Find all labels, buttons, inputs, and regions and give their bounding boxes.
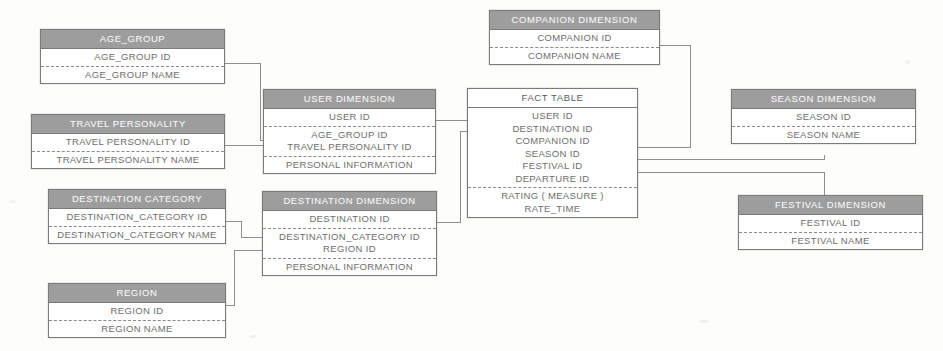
field-group-key: DESTINATION_CATEGORY ID [49, 209, 225, 226]
field-festival-id: FESTIVAL ID [741, 217, 920, 230]
connector-user-to-fact [436, 120, 468, 121]
entity-title-festival-dimension: FESTIVAL DIMENSION [739, 196, 922, 215]
field-age-group-id: AGE_GROUP ID [43, 51, 222, 64]
field-age-group-name: AGE_GROUP NAME [43, 69, 222, 82]
connector-destination-category-to-destination [226, 221, 242, 222]
entity-travel-personality[interactable]: TRAVEL PERSONALITY TRAVEL PERSONALITY ID… [31, 114, 225, 169]
field-rate-time: RATE_TIME [470, 203, 635, 216]
field-group-key: REGION ID [49, 303, 225, 320]
schema-diagram-canvas: AGE_GROUP AGE_GROUP ID AGE_GROUP NAME TR… [0, 0, 943, 351]
entity-companion-dimension[interactable]: COMPANION DIMENSION COMPANION ID COMPANI… [489, 10, 660, 65]
field-group-foreign-keys: AGE_GROUP ID TRAVEL PERSONALITY ID [264, 126, 435, 156]
entity-region[interactable]: REGION REGION ID REGION NAME [48, 283, 226, 338]
connector-companion-to-fact [690, 45, 691, 148]
entity-user-dimension[interactable]: USER DIMENSION USER ID AGE_GROUP ID TRAV… [263, 89, 436, 174]
field-rating-measure: RATING ( MEASURE ) [470, 190, 635, 203]
paper-grain [700, 320, 708, 323]
field-group-attributes: REGION NAME [49, 320, 225, 338]
field-group-attributes: PERSONAL INFORMATION [263, 258, 436, 276]
field-group-attributes: TRAVEL PERSONALITY NAME [32, 151, 224, 169]
field-group-key: SEASON ID [732, 109, 915, 126]
entity-body-companion-dimension: COMPANION ID COMPANION NAME [490, 30, 659, 64]
field-group-key: TRAVEL PERSONALITY ID [32, 134, 224, 151]
field-season-id-fk: SEASON ID [470, 148, 635, 161]
field-destination-category-id-fk: DESTINATION_CATEGORY ID [265, 231, 434, 244]
entity-title-user-dimension: USER DIMENSION [264, 90, 435, 109]
entity-title-age-group: AGE_GROUP [41, 30, 224, 49]
entity-body-age-group: AGE_GROUP ID AGE_GROUP NAME [41, 49, 224, 83]
field-group-foreign-keys: USER ID DESTINATION ID COMPANION ID SEAS… [468, 108, 637, 187]
entity-body-user-dimension: USER ID AGE_GROUP ID TRAVEL PERSONALITY … [264, 109, 435, 173]
field-group-measures: RATING ( MEASURE ) RATE_TIME [468, 187, 637, 217]
field-group-attributes: SEASON NAME [732, 126, 915, 144]
entity-title-destination-category: DESTINATION CATEGORY [49, 190, 225, 209]
entity-fact-table[interactable]: FACT TABLE USER ID DESTINATION ID COMPAN… [467, 88, 638, 218]
field-companion-name: COMPANION NAME [492, 50, 657, 63]
field-destination-id: DESTINATION ID [265, 213, 434, 226]
field-group-attributes: AGE_GROUP NAME [41, 66, 224, 84]
connector-festival-to-fact [824, 172, 825, 195]
connector-travel-personality-to-user [225, 145, 266, 146]
field-personal-information: PERSONAL INFORMATION [266, 159, 433, 172]
connector-companion-to-fact [660, 45, 691, 46]
field-group-attributes: COMPANION NAME [490, 47, 659, 65]
connector-companion-to-fact [637, 147, 691, 148]
entity-body-season-dimension: SEASON ID SEASON NAME [732, 109, 915, 143]
field-group-foreign-keys: DESTINATION_CATEGORY ID REGION ID [263, 228, 436, 258]
field-destination-id-fk: DESTINATION ID [470, 123, 635, 136]
field-companion-id: COMPANION ID [492, 32, 657, 45]
paper-grain [250, 335, 257, 338]
field-age-group-id-fk: AGE_GROUP ID [266, 129, 433, 142]
entity-festival-dimension[interactable]: FESTIVAL DIMENSION FESTIVAL ID FESTIVAL … [738, 195, 923, 250]
connector-destination-category-to-destination [241, 221, 242, 238]
field-group-attributes: DESTINATION_CATEGORY NAME [49, 226, 225, 244]
entity-title-season-dimension: SEASON DIMENSION [732, 90, 915, 109]
entity-body-destination-dimension: DESTINATION ID DESTINATION_CATEGORY ID R… [263, 211, 436, 275]
entity-title-travel-personality: TRAVEL PERSONALITY [32, 115, 224, 134]
connector-region-to-destination [234, 250, 263, 251]
entity-season-dimension[interactable]: SEASON DIMENSION SEASON ID SEASON NAME [731, 89, 916, 144]
entity-title-fact-table: FACT TABLE [468, 89, 637, 108]
connector-festival-to-fact [637, 172, 825, 173]
field-group-attributes: FESTIVAL NAME [739, 232, 922, 250]
field-region-id: REGION ID [51, 305, 223, 318]
connector-destination-to-fact [460, 131, 461, 223]
entity-age-group[interactable]: AGE_GROUP AGE_GROUP ID AGE_GROUP NAME [40, 29, 225, 84]
entity-body-destination-category: DESTINATION_CATEGORY ID DESTINATION_CATE… [49, 209, 225, 243]
field-group-key: FESTIVAL ID [739, 215, 922, 232]
field-travel-personality-name: TRAVEL PERSONALITY NAME [34, 154, 222, 167]
field-group-key: USER ID [264, 109, 435, 126]
field-destination-category-name: DESTINATION_CATEGORY NAME [51, 229, 223, 242]
connector-destination-category-to-destination [241, 237, 263, 238]
field-season-name: SEASON NAME [734, 129, 913, 142]
entity-destination-category[interactable]: DESTINATION CATEGORY DESTINATION_CATEGOR… [48, 189, 226, 244]
connector-season-to-fact [637, 159, 825, 160]
connector-age-group-to-user [224, 63, 261, 64]
paper-grain [10, 200, 16, 203]
field-user-id-fk: USER ID [470, 110, 635, 123]
entity-title-destination-dimension: DESTINATION DIMENSION [263, 192, 436, 211]
field-group-key: DESTINATION ID [263, 211, 436, 228]
entity-title-region: REGION [49, 284, 225, 303]
entity-body-region: REGION ID REGION NAME [49, 303, 225, 337]
entity-body-travel-personality: TRAVEL PERSONALITY ID TRAVEL PERSONALITY… [32, 134, 224, 168]
field-travel-personality-id-fk: TRAVEL PERSONALITY ID [266, 141, 433, 154]
field-region-name: REGION NAME [51, 323, 223, 336]
connector-region-to-destination [234, 250, 235, 306]
field-festival-id-fk: FESTIVAL ID [470, 160, 635, 173]
field-group-attributes: PERSONAL INFORMATION [264, 156, 435, 174]
field-companion-id-fk: COMPANION ID [470, 135, 635, 148]
field-region-id-fk: REGION ID [265, 243, 434, 256]
entity-body-fact-table: USER ID DESTINATION ID COMPANION ID SEAS… [468, 108, 637, 217]
field-travel-personality-id: TRAVEL PERSONALITY ID [34, 136, 222, 149]
paper-grain [905, 60, 910, 64]
field-season-id: SEASON ID [734, 111, 913, 124]
entity-destination-dimension[interactable]: DESTINATION DIMENSION DESTINATION ID DES… [262, 191, 437, 276]
connector-age-group-to-user [260, 63, 261, 141]
field-user-id: USER ID [266, 111, 433, 124]
field-group-key: AGE_GROUP ID [41, 49, 224, 66]
field-festival-name: FESTIVAL NAME [741, 235, 920, 248]
connector-destination-to-fact [437, 222, 461, 223]
field-departure-id-fk: DEPARTURE ID [470, 173, 635, 186]
entity-title-companion-dimension: COMPANION DIMENSION [490, 11, 659, 30]
